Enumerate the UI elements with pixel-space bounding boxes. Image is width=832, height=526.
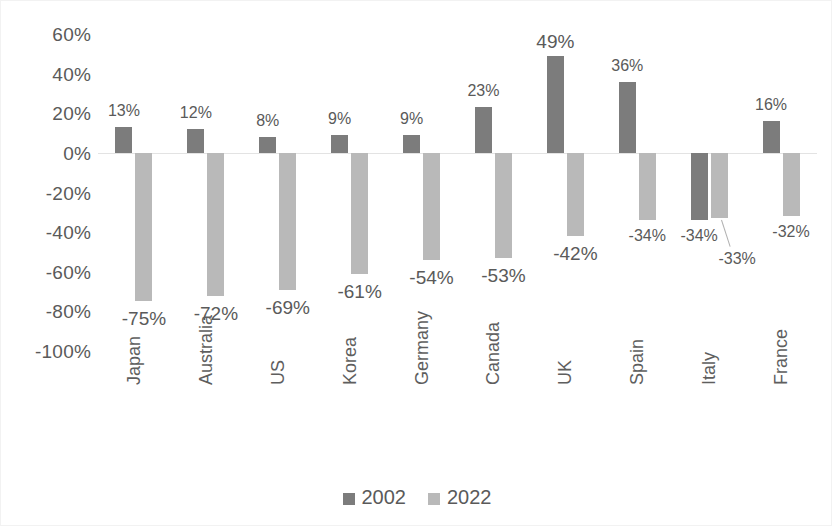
legend-label: 2022 <box>447 487 492 507</box>
bar-australia-2022 <box>207 153 224 296</box>
zero-baseline <box>98 153 817 154</box>
x-axis-category-us: US <box>269 360 287 385</box>
data-label: -33% <box>718 251 755 267</box>
data-label: -34% <box>680 228 717 244</box>
bar-italy-2022 <box>711 153 728 218</box>
bar-korea-2002 <box>331 135 348 153</box>
legend-swatch-icon <box>343 493 355 505</box>
data-label: 36% <box>611 58 643 74</box>
bar-japan-2002 <box>115 127 132 153</box>
x-axis-category-japan: Japan <box>125 336 143 385</box>
data-label: 9% <box>400 111 423 127</box>
data-label: 8% <box>256 113 279 129</box>
x-axis-category-canada: Canada <box>484 322 502 385</box>
bar-uk-2002 <box>547 56 564 153</box>
chart-legend: 20022022 <box>1 485 832 507</box>
x-axis-category-australia: Australia <box>197 315 215 385</box>
bar-canada-2022 <box>495 153 512 258</box>
legend-item-2002[interactable]: 2002 <box>343 487 407 507</box>
bar-us-2002 <box>259 137 276 153</box>
bar-italy-2002 <box>691 153 708 220</box>
data-label: 49% <box>536 32 574 51</box>
bar-germany-2022 <box>423 153 440 260</box>
data-label: 23% <box>467 83 499 99</box>
y-axis-tick-label: 60% <box>5 25 91 44</box>
bar-korea-2022 <box>351 153 368 274</box>
bar-france-2002 <box>763 121 780 153</box>
bar-france-2022 <box>783 153 800 216</box>
data-label: -75% <box>122 309 166 328</box>
data-label: 12% <box>180 105 212 121</box>
bar-uk-2022 <box>567 153 584 236</box>
data-label: -69% <box>266 298 310 317</box>
data-label: -42% <box>553 244 597 263</box>
legend-item-2022[interactable]: 2022 <box>428 487 492 507</box>
y-axis-tick-label: -20% <box>5 184 91 203</box>
bar-spain-2022 <box>639 153 656 220</box>
data-label: -61% <box>337 282 381 301</box>
data-label: 16% <box>755 97 787 113</box>
data-label: -32% <box>772 224 809 240</box>
bar-spain-2002 <box>619 82 636 153</box>
bar-chart: 60%40%20%0%-20%-40%-60%-80%-100%13%-75%J… <box>0 0 832 526</box>
data-label: 9% <box>328 111 351 127</box>
data-label-leader-line <box>721 220 731 247</box>
y-axis-tick-label: -100% <box>5 342 91 361</box>
data-label: 13% <box>108 103 140 119</box>
legend-label: 2002 <box>362 487 407 507</box>
x-axis-category-germany: Germany <box>413 311 431 385</box>
y-axis-tick-label: 40% <box>5 65 91 84</box>
y-axis-tick-label: -40% <box>5 223 91 242</box>
bar-australia-2002 <box>187 129 204 153</box>
x-axis-category-italy: Italy <box>700 352 718 385</box>
bar-germany-2002 <box>403 135 420 153</box>
x-axis-category-spain: Spain <box>628 339 646 385</box>
x-axis-category-korea: Korea <box>341 337 359 385</box>
y-axis-tick-label: -60% <box>5 263 91 282</box>
bar-japan-2022 <box>135 153 152 302</box>
x-axis-category-uk: UK <box>556 360 574 385</box>
data-label: -53% <box>481 266 525 285</box>
data-label: -54% <box>409 268 453 287</box>
data-label: -34% <box>629 228 666 244</box>
y-axis: 60%40%20%0%-20%-40%-60%-80%-100% <box>1 1 91 526</box>
plot-area: 60%40%20%0%-20%-40%-60%-80%-100%13%-75%J… <box>1 1 832 526</box>
bar-us-2022 <box>279 153 296 290</box>
y-axis-tick-label: 20% <box>5 104 91 123</box>
y-axis-tick-label: 0% <box>5 144 91 163</box>
bar-canada-2002 <box>475 107 492 153</box>
legend-swatch-icon <box>428 493 440 505</box>
y-axis-tick-label: -80% <box>5 302 91 321</box>
x-axis-category-france: France <box>772 329 790 385</box>
